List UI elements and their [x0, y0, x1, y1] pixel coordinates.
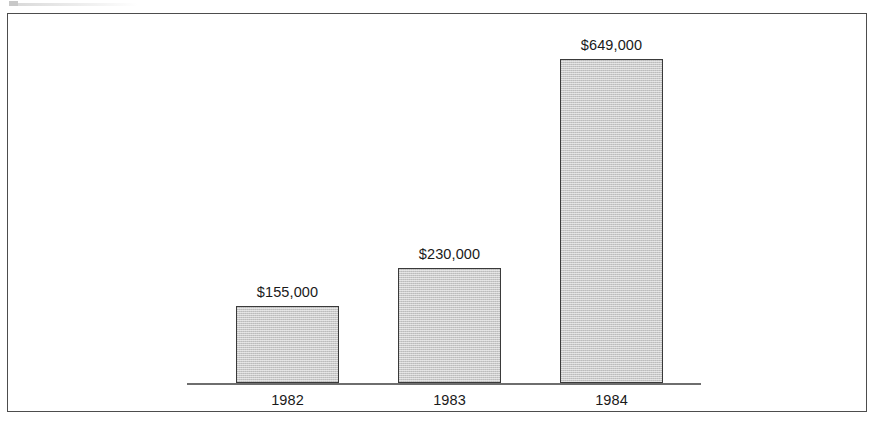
- bar-1982[interactable]: [236, 306, 339, 383]
- bar-value-label-1984: $649,000: [538, 37, 685, 53]
- scanned-page: $155,000 1982 $230,000 1983 $649,000 198…: [0, 0, 876, 423]
- bar-group-1984: $649,000 1984: [560, 59, 663, 383]
- figure-frame: $155,000 1982 $230,000 1983 $649,000 198…: [7, 13, 867, 412]
- x-axis-tick-label-1983: 1983: [376, 392, 523, 408]
- bar-1984[interactable]: [560, 59, 663, 383]
- bar-group-1982: $155,000 1982: [236, 306, 339, 383]
- x-axis-tick-label-1984: 1984: [538, 392, 685, 408]
- bar-chart-plot-area: $155,000 1982 $230,000 1983 $649,000 198…: [8, 14, 868, 413]
- bar-value-label-1982: $155,000: [214, 284, 361, 300]
- scan-artifact-speck: [9, 1, 18, 6]
- x-axis-tick-label-1982: 1982: [214, 392, 361, 408]
- scan-artifact-smudge: [18, 3, 138, 6]
- bar-1983[interactable]: [398, 268, 501, 383]
- x-axis-line: [187, 383, 701, 385]
- bar-group-1983: $230,000 1983: [398, 268, 501, 383]
- bar-value-label-1983: $230,000: [376, 246, 523, 262]
